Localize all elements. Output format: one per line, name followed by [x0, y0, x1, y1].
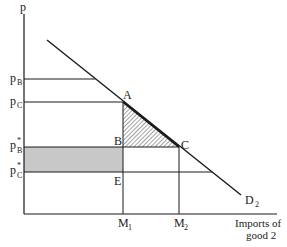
y-axis-label: p — [20, 0, 26, 14]
svg-text:2: 2 — [255, 200, 259, 209]
label-pb: p B — [10, 71, 22, 87]
tariff-diagram: p Imports of good 2 p B p C p * B p * C … — [0, 0, 287, 247]
label-m1: M 1 — [118, 216, 132, 232]
svg-text:*: * — [17, 136, 21, 145]
svg-text:B: B — [17, 146, 22, 155]
svg-text:*: * — [17, 161, 21, 170]
label-pc: p C — [10, 94, 22, 110]
svg-text:C: C — [17, 171, 22, 180]
point-a-label: A — [123, 88, 132, 102]
svg-text:p: p — [10, 71, 16, 85]
point-c-label: C — [181, 138, 189, 152]
svg-text:D: D — [245, 193, 254, 207]
svg-text:p: p — [10, 163, 16, 177]
svg-text:1: 1 — [128, 223, 132, 232]
svg-text:C: C — [17, 101, 22, 110]
x-axis-label-line1: Imports of — [235, 217, 281, 229]
shaded-rectangle — [24, 147, 123, 172]
label-d2: D 2 — [245, 193, 259, 209]
point-e-label: E — [114, 174, 121, 188]
point-b-label: B — [114, 134, 122, 148]
x-axis-label-line2: good 2 — [246, 229, 276, 241]
label-pb-star: p * B — [10, 136, 22, 155]
svg-text:p: p — [10, 138, 16, 152]
label-m2: M 2 — [174, 216, 188, 232]
svg-text:p: p — [10, 94, 16, 108]
label-pc-star: p * C — [10, 161, 22, 180]
svg-text:2: 2 — [184, 223, 188, 232]
svg-text:B: B — [17, 78, 22, 87]
